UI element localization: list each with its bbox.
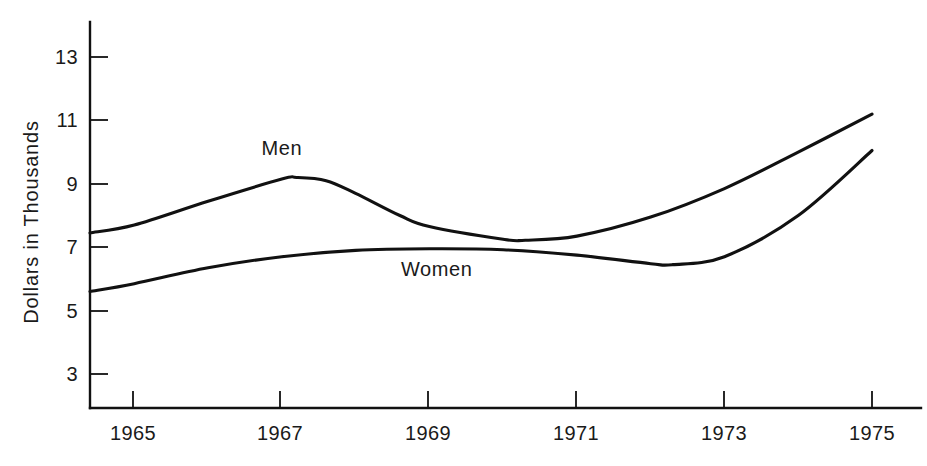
y-tick-label-9: 9 (66, 173, 78, 195)
y-tick-label-13: 13 (55, 46, 78, 68)
x-tick-label-1967: 1967 (257, 422, 303, 444)
x-tick-label-1975: 1975 (849, 422, 895, 444)
y-tick-label-5: 5 (66, 300, 78, 322)
x-tick-marks (133, 391, 872, 408)
series-line-men (90, 114, 872, 241)
line-chart: 13 11 9 7 5 3 1965 1967 1969 1971 1973 1… (0, 0, 927, 466)
y-tick-label-3: 3 (66, 363, 78, 385)
x-tick-label-1973: 1973 (701, 422, 747, 444)
series-label-women: Women (401, 258, 473, 280)
series-line-women (90, 151, 872, 292)
series-label-men: Men (261, 137, 302, 159)
y-axis-title: Dollars in Thousands (20, 120, 42, 324)
y-tick-marks (90, 57, 108, 374)
chart-canvas: 13 11 9 7 5 3 1965 1967 1969 1971 1973 1… (0, 0, 927, 466)
y-tick-label-11: 11 (56, 109, 78, 131)
x-tick-label-1969: 1969 (405, 422, 451, 444)
y-tick-label-7: 7 (66, 236, 78, 258)
x-tick-label-1965: 1965 (110, 422, 156, 444)
x-tick-label-1971: 1971 (553, 422, 599, 444)
